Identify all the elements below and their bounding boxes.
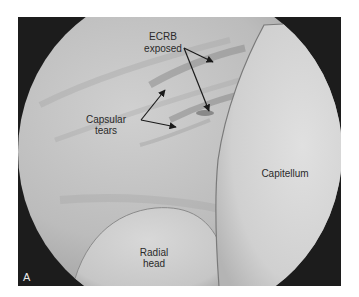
label-radial: Radial: [140, 247, 168, 258]
arthroscopic-view: ECRB exposed Capsular tears Capitellum R…: [0, 0, 359, 297]
panel-label: A: [23, 271, 31, 283]
label-tears: tears: [95, 125, 117, 136]
label-ecrb: ECRB: [149, 31, 177, 42]
label-capsular: Capsular: [86, 114, 127, 125]
label-exposed: exposed: [144, 43, 182, 54]
arthroscopic-figure: ECRB exposed Capsular tears Capitellum R…: [0, 0, 359, 297]
label-head: head: [143, 258, 165, 269]
label-capitellum: Capitellum: [261, 168, 308, 179]
